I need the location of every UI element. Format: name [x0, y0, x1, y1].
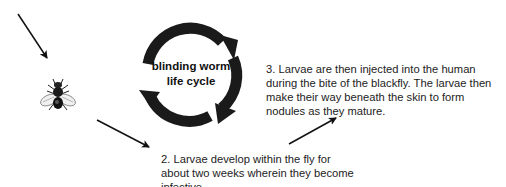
cycle-title-line1: blinding worm [150, 59, 232, 74]
step-3-text: 3. Larvae are then injected into the hum… [266, 62, 506, 118]
step-2-text: 2. Larvae develop within the fly for abo… [161, 152, 361, 187]
cycle-title: blinding worm life cycle [150, 59, 232, 89]
blackfly-icon [39, 79, 78, 110]
cycle-title-line2: life cycle [150, 74, 232, 89]
arrow-into-fly [18, 14, 47, 58]
arrow-fly-to-step2 [97, 120, 149, 147]
arrow-step2-to-step3 [289, 118, 336, 144]
